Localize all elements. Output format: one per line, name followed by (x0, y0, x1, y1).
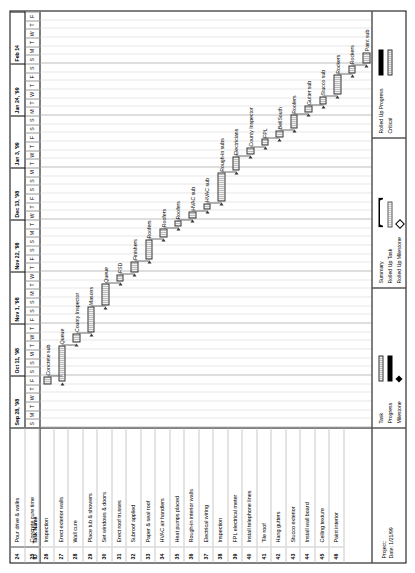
row-name-cell: Subroof applied (126, 428, 140, 546)
dependency-link-vertical (148, 238, 163, 239)
timeline-minor-tick-label: T (29, 404, 34, 407)
gantt-bar[interactable]: County Inspector (246, 147, 254, 154)
table-row[interactable]: 28Wall cure (68, 428, 83, 562)
gantt-bar[interactable]: Roofers (145, 239, 153, 259)
gantt-row: Finishers (127, 11, 142, 427)
gantt-row: Rockers (345, 11, 360, 427)
row-id-cell: 39 (228, 546, 242, 562)
row-id-label: 25 (29, 553, 34, 559)
timeline-minor-tick-label: S (29, 179, 34, 182)
row-name-label: Erect exterior walls (58, 496, 63, 542)
row-id-cell: 43 (286, 546, 300, 562)
timeline-minor-tick: W (25, 332, 40, 341)
legend-group-1: TaskProgressMilestone (372, 287, 405, 427)
table-row[interactable]: 31Erect roof trusses (112, 428, 127, 562)
row-name-label: HVAC air handlers (159, 498, 164, 542)
gantt-bar-label: Queue (103, 267, 108, 283)
gantt-bar[interactable]: Gutter sub (304, 105, 312, 112)
gantt-area: Sep 28, '98Oct 11, '98Nov 1, '98Nov 22, … (10, 11, 371, 427)
gantt-bar[interactable]: Finishers (130, 261, 138, 272)
row-id-label: 30 (101, 553, 106, 559)
row-id-label: 37 (203, 553, 208, 559)
table-row[interactable]: 26Inspection (39, 428, 54, 562)
gantt-bar[interactable]: Masons (87, 306, 95, 332)
table-row[interactable]: 34HVAC air handlers (155, 428, 170, 562)
dependency-link-vertical (105, 282, 120, 283)
table-row[interactable]: 25Concrete cure time (25, 428, 40, 562)
row-id-label: 38 (217, 553, 222, 559)
gantt-bar[interactable]: BellSouth (275, 130, 283, 137)
table-row[interactable]: 40Install telephone lines (242, 428, 257, 562)
gantt-bar[interactable]: Roofers (159, 228, 167, 238)
dependency-link-vertical (264, 137, 279, 138)
gantt-bar[interactable]: HVAC sub (203, 203, 211, 210)
legend-swatch-progress (387, 355, 392, 381)
gantt-bar[interactable]: Concrete sub (43, 376, 51, 384)
gantt-bar[interactable]: Electricians (232, 156, 240, 171)
gantt-bar-label: Gutter sub (306, 80, 311, 104)
gantt-bar-label: Rough-in subs (219, 138, 224, 171)
legend-swatch-rolled-up-task (387, 201, 392, 227)
gantt-row: Concrete sub (40, 11, 55, 427)
legend-label: Task (378, 412, 383, 423)
table-row[interactable]: 43Stucco exterior (286, 428, 301, 562)
row-name-label: Place tub & showers (87, 493, 92, 542)
legend-swatch-task (378, 355, 383, 381)
legend-label: Critical (387, 117, 392, 133)
timeline-minor-tick: F (25, 375, 40, 384)
row-id-cell: 29 (83, 546, 97, 562)
table-row[interactable]: 39FPL electrical meter (228, 428, 243, 562)
timeline-major-tick: Oct 11, '98 (10, 323, 25, 375)
row-id-label: 46 (333, 553, 338, 559)
table-row[interactable]: 41Tile roof (257, 428, 272, 562)
gantt-bar[interactable]: Rockers (348, 65, 356, 73)
gantt-bar-label: Roofers (161, 209, 166, 227)
gantt-bar[interactable]: Stucco sub (319, 96, 327, 104)
timeline-minor-tick: S (25, 236, 40, 245)
timeline-minor-tick-label: S (29, 421, 34, 424)
gantt-bar-label: Masons (88, 287, 93, 305)
legend-swatch-rolled-up-milestone (394, 219, 404, 229)
table-row[interactable]: 32Subroof applied (126, 428, 141, 562)
gantt-bar[interactable]: HVAC sub (188, 211, 196, 218)
table-row[interactable]: 30Set windows & doors (97, 428, 112, 562)
table-row[interactable]: 45Ceiling texture (315, 428, 330, 562)
table-row[interactable]: 42Hang gutters (271, 428, 286, 562)
legend-label: Rolled Up Task (387, 248, 392, 283)
timeline-minor-tick: W (25, 392, 40, 401)
timeline-minor-tick: T (25, 340, 40, 349)
row-id-cell: 26 (39, 546, 53, 562)
timeline-minor-tick-label: S (29, 66, 34, 69)
gantt-bar-label: Stucco sub (320, 69, 325, 95)
table-row[interactable]: 46Paint interior (329, 428, 344, 562)
timeline-minor-tick: T (25, 401, 40, 410)
gantt-bar[interactable]: Queue (101, 283, 109, 305)
gantt-bar[interactable]: Roofers (174, 220, 182, 226)
gantt-bar[interactable]: Rockers (333, 74, 341, 94)
table-row[interactable]: 38Inspection (213, 428, 228, 562)
timeline-minor-tick-label: W (29, 273, 34, 278)
table-row[interactable]: 36Rough-in interior walls (184, 428, 199, 562)
gantt-bar[interactable]: Paint sub (362, 52, 370, 63)
row-name-cell: Inspection (213, 428, 227, 546)
gantt-bar[interactable]: Rough-in subs (217, 172, 225, 201)
timeline-major-tick: Nov 22, '98 (10, 219, 25, 271)
table-row[interactable]: 33Paper & seal roof (141, 428, 156, 562)
gantt-row: Masons (84, 11, 99, 427)
project-info: Project: Date: 1/21/99 (380, 527, 394, 558)
gantt-bar[interactable]: FSD (116, 274, 124, 282)
gantt-bar[interactable]: County Inspector (72, 333, 80, 343)
gantt-bar[interactable]: Roofers (290, 114, 298, 128)
table-row[interactable]: 44Install wall board (300, 428, 315, 562)
project-date: Date: 1/21/99 (387, 527, 394, 558)
table-row[interactable]: 29Place tub & showers (83, 428, 98, 562)
table-row[interactable]: 37Electrical wiring (199, 428, 214, 562)
table-row[interactable]: 24Pour drive & walks (10, 428, 25, 562)
row-id-label: 33 (145, 553, 150, 559)
table-row[interactable]: 35Heat pumps placed (170, 428, 185, 562)
gantt-bar[interactable]: FPL (261, 138, 269, 145)
row-name-cell: Erect exterior walls (54, 428, 68, 546)
dependency-link-vertical (90, 305, 105, 306)
table-row[interactable]: 27Erect exterior walls (54, 428, 69, 562)
row-name-label: Paper & seal roof (145, 500, 150, 542)
